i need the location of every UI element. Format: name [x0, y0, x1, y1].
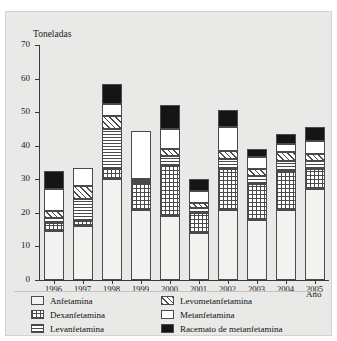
bar-segment-racemato-de-metanfetamina — [189, 179, 209, 191]
bar-segment-levanfetamina — [218, 159, 238, 169]
legend-label: Dexanfetamina — [50, 310, 105, 320]
bar-segment-metanfetamina — [131, 131, 151, 180]
bar-segment-anfetamina — [160, 216, 180, 280]
bar-2005 — [305, 45, 325, 280]
legend-item: Racemato de metanfetamina — [161, 322, 282, 335]
legend-label: Anfetamina — [50, 296, 92, 306]
chart-title — [0, 0, 337, 9]
bar-segment-dexanfetamina — [44, 223, 64, 231]
bar-segment-metanfetamina — [218, 127, 238, 151]
bar-1998 — [102, 45, 122, 280]
bar-segment-racemato-de-metanfetamina — [218, 110, 238, 127]
bar-segment-levanfetamina — [276, 161, 296, 171]
bar-segment-metanfetamina — [305, 141, 325, 154]
bar-segment-levometanfetamina — [160, 149, 180, 156]
bar-segment-levanfetamina — [247, 176, 267, 184]
y-tick-label: 30 — [8, 173, 30, 183]
bar-2004 — [276, 45, 296, 280]
legend-column-1: AnfetaminaDexanfetaminaLevanfetamina — [31, 294, 105, 336]
legend-column-2: LevometanfetaminaMetanfetaminaRacemato d… — [161, 294, 282, 336]
legend-swatch-grid-icon — [31, 310, 44, 319]
bar-segment-levometanfetamina — [102, 116, 122, 129]
chart-frame: Toneladas Año 010203040506070 1996199719… — [5, 11, 332, 336]
bar-segment-racemato-de-metanfetamina — [102, 84, 122, 104]
legend-item: Levometanfetamina — [161, 294, 282, 307]
x-tick-label: 2005 — [298, 284, 332, 294]
bar-segment-levometanfetamina — [305, 154, 325, 161]
legend-swatch-horizontal-lines-icon — [31, 324, 44, 333]
bar-segment-metanfetamina — [73, 168, 93, 186]
bar-segment-levometanfetamina — [276, 152, 296, 160]
bar-segment-anfetamina — [73, 226, 93, 280]
bar-segment-anfetamina — [218, 210, 238, 281]
bar-segment-dexanfetamina — [305, 169, 325, 189]
legend-item: Metanfetamina — [161, 308, 282, 321]
bar-segment-racemato-de-metanfetamina — [247, 149, 267, 157]
legend-label: Metanfetamina — [180, 310, 234, 320]
bar-segment-levanfetamina — [102, 129, 122, 169]
bar-segment-levanfetamina — [44, 218, 64, 223]
legend-swatch-solid-black-icon — [161, 324, 174, 333]
y-tick-label: 70 — [8, 39, 30, 49]
bar-2002 — [218, 45, 238, 280]
y-tick-label: 10 — [8, 240, 30, 250]
y-tick-label: 40 — [8, 140, 30, 150]
bar-2000 — [160, 45, 180, 280]
legend-item: Anfetamina — [31, 294, 105, 307]
bar-segment-levometanfetamina — [189, 203, 209, 208]
bar-segment-racemato-de-metanfetamina — [305, 127, 325, 140]
bar-segment-levometanfetamina — [247, 169, 267, 176]
bar-segment-metanfetamina — [44, 189, 64, 211]
bar-1999 — [131, 45, 151, 280]
bar-segment-dexanfetamina — [247, 184, 267, 219]
bar-segment-anfetamina — [276, 210, 296, 281]
bar-1997 — [73, 45, 93, 280]
bar-segment-metanfetamina — [160, 129, 180, 149]
bar-segment-levanfetamina — [189, 208, 209, 213]
bar-segment-racemato-de-metanfetamina — [44, 171, 64, 189]
bar-segment-dexanfetamina — [102, 169, 122, 179]
legend-swatch-solid-white-icon — [161, 310, 174, 319]
bars-layer — [39, 45, 329, 280]
bar-segment-metanfetamina — [247, 157, 267, 169]
bar-segment-anfetamina — [305, 189, 325, 280]
y-tick-label: 0 — [8, 274, 30, 284]
bar-segment-anfetamina — [131, 210, 151, 281]
bar-segment-levanfetamina — [305, 161, 325, 169]
bar-segment-racemato-de-metanfetamina — [276, 134, 296, 144]
bar-2001 — [189, 45, 209, 280]
chart-legend: AnfetaminaDexanfetaminaLevanfetamina Lev… — [19, 294, 319, 336]
bar-segment-anfetamina — [189, 233, 209, 280]
legend-divider — [14, 291, 319, 292]
bar-segment-racemato-de-metanfetamina — [160, 105, 180, 129]
bar-segment-dexanfetamina — [131, 183, 151, 210]
bar-segment-anfetamina — [44, 231, 64, 280]
bar-segment-metanfetamina — [276, 144, 296, 152]
bar-segment-metanfetamina — [189, 191, 209, 203]
y-tick — [35, 280, 39, 281]
y-tick-label: 20 — [8, 207, 30, 217]
bar-segment-anfetamina — [102, 179, 122, 280]
y-axis-label: Toneladas — [33, 29, 71, 39]
legend-swatch-dots-icon — [31, 296, 44, 305]
chart-page: Toneladas Año 010203040506070 1996199719… — [0, 0, 337, 341]
bar-segment-levometanfetamina — [44, 211, 64, 218]
bar-segment-levometanfetamina — [73, 186, 93, 199]
bar-2003 — [247, 45, 267, 280]
bar-segment-anfetamina — [247, 220, 267, 280]
y-tick-label: 50 — [8, 106, 30, 116]
bar-segment-dexanfetamina — [218, 169, 238, 209]
legend-swatch-diagonal-hatch-icon — [161, 296, 174, 305]
legend-label: Levanfetamina — [50, 324, 104, 334]
legend-item: Dexanfetamina — [31, 308, 105, 321]
bar-segment-dexanfetamina — [160, 166, 180, 216]
bar-segment-levanfetamina — [73, 199, 93, 221]
bar-segment-levanfetamina — [160, 156, 180, 166]
bar-segment-dexanfetamina — [276, 171, 296, 210]
legend-label: Racemato de metanfetamina — [180, 324, 282, 334]
legend-label: Levometanfetamina — [180, 296, 252, 306]
bar-segment-metanfetamina — [102, 104, 122, 116]
y-tick-label: 60 — [8, 73, 30, 83]
bar-segment-dexanfetamina — [189, 213, 209, 233]
bar-segment-dexanfetamina — [73, 221, 93, 226]
